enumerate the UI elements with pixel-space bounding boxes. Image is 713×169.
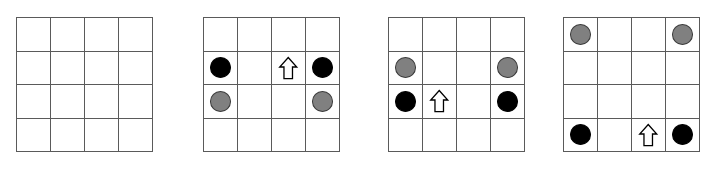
grid-cell[interactable]	[666, 85, 700, 119]
gray-disc	[312, 91, 334, 112]
grid-cell[interactable]	[457, 119, 491, 153]
grid-cell[interactable]	[17, 52, 51, 86]
grid-cell[interactable]	[119, 119, 153, 153]
black-disc	[312, 57, 334, 78]
grid-cell[interactable]	[85, 85, 119, 119]
grid-cell[interactable]	[491, 52, 525, 86]
grid-cell[interactable]	[51, 18, 85, 52]
grid-cell[interactable]	[238, 119, 272, 153]
grid-cell[interactable]	[306, 18, 340, 52]
panel-2	[203, 17, 340, 152]
grid-cell[interactable]	[85, 18, 119, 52]
gray-disc	[672, 24, 694, 45]
grid-cell[interactable]	[85, 119, 119, 153]
grid-cell[interactable]	[51, 85, 85, 119]
grid-cell[interactable]	[457, 85, 491, 119]
gray-disc	[395, 57, 417, 78]
grid-cell[interactable]	[272, 18, 306, 52]
up-arrow-icon	[278, 56, 298, 80]
up-arrow-icon	[429, 89, 449, 113]
black-disc	[497, 91, 519, 112]
puzzle-sequence-figure	[0, 0, 713, 169]
grid-cell[interactable]	[598, 85, 632, 119]
grid-cell[interactable]	[598, 52, 632, 86]
panel-4-grid	[563, 17, 700, 152]
grid-cell[interactable]	[238, 18, 272, 52]
grid-cell[interactable]	[204, 85, 238, 119]
grid-cell[interactable]	[423, 119, 457, 153]
grid-cell[interactable]	[457, 52, 491, 86]
grid-cell[interactable]	[17, 85, 51, 119]
grid-cell[interactable]	[204, 52, 238, 86]
grid-cell[interactable]	[491, 18, 525, 52]
grid-cell[interactable]	[51, 52, 85, 86]
grid-cell[interactable]	[389, 119, 423, 153]
panel-3	[388, 17, 525, 152]
grid-cell[interactable]	[306, 119, 340, 153]
grid-cell[interactable]	[119, 85, 153, 119]
grid-cell[interactable]	[491, 85, 525, 119]
gray-disc	[210, 91, 232, 112]
grid-cell[interactable]	[85, 52, 119, 86]
grid-cell[interactable]	[119, 18, 153, 52]
grid-cell[interactable]	[17, 18, 51, 52]
panel-3-grid	[388, 17, 525, 152]
grid-cell[interactable]	[632, 52, 666, 86]
grid-cell[interactable]	[491, 119, 525, 153]
grid-cell[interactable]	[598, 18, 632, 52]
up-arrow-icon	[638, 123, 658, 147]
grid-cell[interactable]	[564, 18, 598, 52]
grid-cell[interactable]	[204, 18, 238, 52]
grid-cell[interactable]	[564, 85, 598, 119]
grid-cell[interactable]	[564, 52, 598, 86]
grid-cell[interactable]	[632, 18, 666, 52]
grid-cell[interactable]	[272, 119, 306, 153]
panel-2-grid	[203, 17, 340, 152]
black-disc	[210, 57, 232, 78]
gray-disc	[497, 57, 519, 78]
grid-cell[interactable]	[389, 18, 423, 52]
grid-cell[interactable]	[423, 18, 457, 52]
grid-cell[interactable]	[51, 119, 85, 153]
panel-4	[563, 17, 700, 152]
grid-cell[interactable]	[666, 52, 700, 86]
grid-cell[interactable]	[423, 85, 457, 119]
grid-cell[interactable]	[238, 52, 272, 86]
black-disc	[570, 124, 592, 145]
grid-cell[interactable]	[272, 85, 306, 119]
grid-cell[interactable]	[272, 52, 306, 86]
grid-cell[interactable]	[564, 119, 598, 153]
grid-cell[interactable]	[423, 52, 457, 86]
panel-1-grid	[16, 17, 153, 152]
grid-cell[interactable]	[598, 119, 632, 153]
grid-cell[interactable]	[457, 18, 491, 52]
grid-cell[interactable]	[666, 18, 700, 52]
gray-disc	[570, 24, 592, 45]
black-disc	[395, 91, 417, 112]
grid-cell[interactable]	[204, 119, 238, 153]
grid-cell[interactable]	[632, 85, 666, 119]
grid-cell[interactable]	[119, 52, 153, 86]
black-disc	[672, 124, 694, 145]
grid-cell[interactable]	[238, 85, 272, 119]
grid-cell[interactable]	[389, 52, 423, 86]
grid-cell[interactable]	[306, 52, 340, 86]
grid-cell[interactable]	[17, 119, 51, 153]
grid-cell[interactable]	[306, 85, 340, 119]
grid-cell[interactable]	[389, 85, 423, 119]
panel-1	[16, 17, 153, 152]
grid-cell[interactable]	[632, 119, 666, 153]
grid-cell[interactable]	[666, 119, 700, 153]
